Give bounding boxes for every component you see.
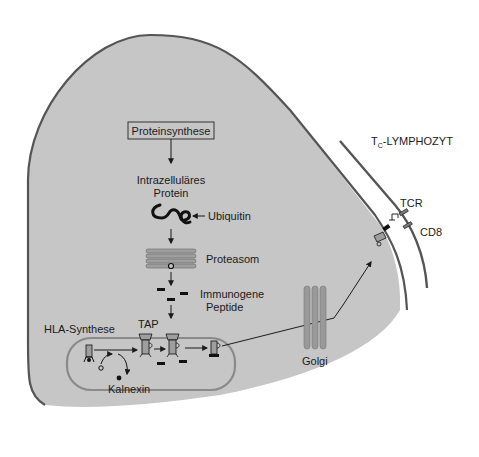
- proteasome-label: Proteasom: [206, 253, 259, 265]
- immunogenic-peptides-label: Immunogene: [200, 288, 264, 300]
- immunogenic-peptides-label-2: Peptide: [206, 301, 243, 313]
- hla-synthesis-label: HLA-Synthese: [44, 323, 115, 335]
- intracellular-protein-label-2: Protein: [154, 187, 189, 199]
- t-lymphocyte-label: TC-LYMPHOZYT: [371, 135, 453, 149]
- ubiquitin-label: Ubiquitin: [208, 210, 251, 222]
- calnexin-label: Kalnexin: [108, 383, 150, 395]
- tcr-label: TCR: [400, 197, 423, 209]
- tap-label: TAP: [138, 318, 159, 330]
- proteasome-icon: [146, 249, 196, 269]
- intracellular-protein-label: Intrazelluläres: [137, 174, 206, 186]
- golgi-icon: [304, 286, 326, 349]
- protein-synthesis-label: Proteinsynthese: [132, 125, 211, 137]
- cd8-label: CD8: [420, 226, 442, 238]
- calnexin-icon: [117, 376, 122, 381]
- antigen-presentation-diagram: TC-LYMPHOZYT Proteinsynthese Intrazellul…: [0, 0, 479, 457]
- golgi-label: Golgi: [302, 355, 328, 367]
